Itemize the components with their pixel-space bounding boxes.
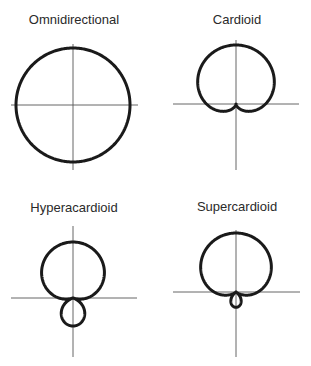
- title-cardioid: Cardioid: [213, 13, 261, 26]
- panel-supercardioid: [173, 230, 300, 357]
- panel-cardioid: [173, 40, 299, 170]
- title-hyperacardioid: Hyperacardioid: [30, 201, 117, 214]
- panel-omnidirectional: [11, 44, 138, 170]
- title-supercardioid: Supercardioid: [197, 200, 277, 213]
- title-omnidirectional: Omnidirectional: [29, 13, 119, 26]
- polar-pattern-diagram: [0, 0, 311, 366]
- panel-hyperacardioid: [11, 226, 137, 357]
